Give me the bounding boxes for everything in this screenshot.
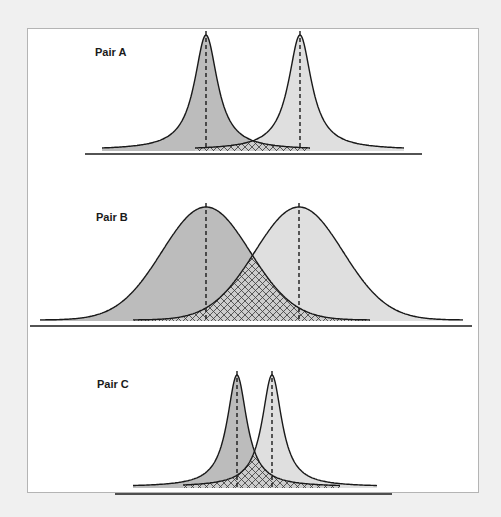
pair-a-group bbox=[85, 31, 422, 154]
pair-c-group bbox=[115, 371, 392, 494]
distribution-overlap-diagram bbox=[0, 0, 501, 517]
pair-c-label: Pair C bbox=[97, 378, 129, 390]
pair-b-label: Pair B bbox=[96, 211, 128, 223]
pair-a-label: Pair A bbox=[95, 46, 126, 58]
